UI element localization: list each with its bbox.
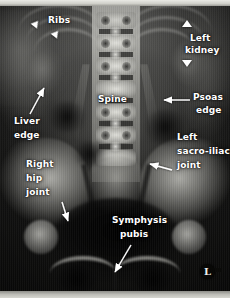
label-left-kidney-line2: kidney <box>185 45 220 56</box>
film-bottom-border <box>0 291 230 298</box>
spinous-process <box>110 49 121 60</box>
side-marker-tab <box>215 268 221 272</box>
bowel-gas-shadow <box>44 102 90 132</box>
label-hip-line2: hip <box>26 173 42 184</box>
left-femoral-head <box>172 220 206 254</box>
spinous-process <box>110 141 121 152</box>
pedicle <box>122 108 131 117</box>
spinous-process <box>110 72 121 83</box>
label-spine: Spine <box>98 94 127 105</box>
label-sij-line1: Left <box>177 132 197 143</box>
label-sij-line3: joint <box>177 160 201 171</box>
right-obturator-foramen <box>58 264 96 291</box>
label-psoas-edge-line1: Psoas <box>193 92 223 103</box>
label-ribs: Ribs <box>48 15 70 26</box>
spinous-process <box>110 26 121 37</box>
pedicle <box>101 62 110 71</box>
xray-figure: Ribs Left kidney Liver edge Spine Psoas … <box>0 0 230 298</box>
left-kidney-arrowhead-lower <box>182 60 192 67</box>
label-sij-line2: sacro-iliac <box>177 146 230 157</box>
left-obturator-foramen <box>134 264 172 291</box>
pedicle <box>122 16 131 25</box>
left-kidney-arrowhead-upper <box>182 20 192 27</box>
label-symphysis-line1: Symphysis <box>112 215 167 226</box>
label-hip-line3: joint <box>26 187 50 198</box>
label-hip-line1: Right <box>26 159 54 170</box>
right-femoral-head <box>24 220 58 254</box>
side-marker-left: L <box>200 264 215 279</box>
pedicle <box>101 16 110 25</box>
spinous-process <box>110 118 121 129</box>
label-symphysis-line2: pubis <box>120 229 148 240</box>
pedicle <box>122 131 131 140</box>
pedicle <box>101 39 110 48</box>
pedicle <box>101 108 110 117</box>
symphysis-pubis-joint <box>113 268 117 290</box>
label-psoas-edge-line2: edge <box>196 105 222 116</box>
bowel-gas-shadow <box>70 142 110 166</box>
pedicle <box>122 62 131 71</box>
pedicle <box>122 39 131 48</box>
radiograph-image: Ribs Left kidney Liver edge Spine Psoas … <box>0 6 230 291</box>
label-liver-edge-line1: Liver <box>14 116 40 127</box>
pedicle <box>101 131 110 140</box>
label-left-kidney-line1: Left <box>190 33 210 44</box>
label-liver-edge-line2: edge <box>14 130 40 141</box>
